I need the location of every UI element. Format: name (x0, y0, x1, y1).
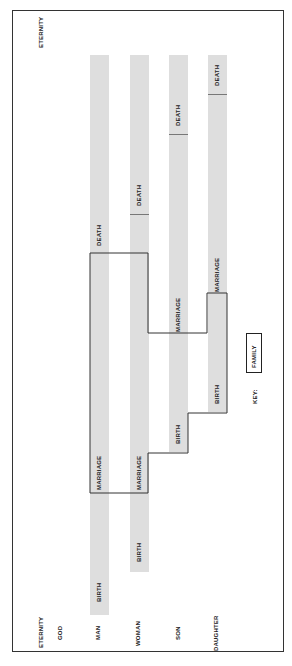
key-label: KEY: (252, 389, 258, 404)
daughter-birth: BIRTH (214, 385, 220, 404)
daughter-death: DEATH (214, 65, 220, 86)
daughter-marriage: MARRIAGE (214, 258, 220, 292)
man-death: DEATH (96, 225, 102, 246)
woman-marriage: MARRIAGE (136, 456, 142, 490)
woman-death: DEATH (136, 185, 142, 206)
son-death: DEATH (175, 105, 181, 126)
woman-birth: BIRTH (136, 543, 142, 562)
son-birth: BIRTH (175, 425, 181, 444)
man-marriage: MARRIAGE (96, 456, 102, 490)
son-marriage: MARRIAGE (175, 298, 181, 332)
man-birth: BIRTH (96, 583, 102, 602)
key-family-label: FAMILY (251, 345, 257, 368)
